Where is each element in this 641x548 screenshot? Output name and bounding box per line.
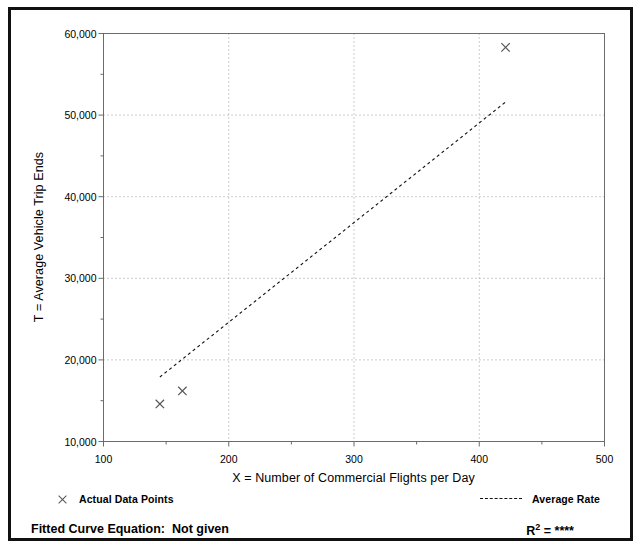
chart-footer: Fitted Curve Equation: Not given R2 = **… [0, 522, 641, 544]
x-tick-label: 100 [95, 453, 113, 465]
r-squared-value: R2 = **** [526, 522, 574, 538]
fitted-curve-equation: Fitted Curve Equation: Not given [31, 522, 229, 536]
r2-equals-value: = **** [540, 524, 574, 538]
y-tick-label: 40,000 [41, 191, 97, 203]
plot-area: T = Average Vehicle Trip Ends X = Number… [0, 0, 641, 548]
legend-item-data-points: Actual Data Points [57, 493, 174, 505]
legend-label-average-rate: Average Rate [532, 493, 600, 505]
y-tick-label: 30,000 [41, 272, 97, 284]
x-tick-label: 200 [220, 453, 238, 465]
x-axis-title: X = Number of Commercial Flights per Day [103, 471, 604, 485]
legend-label-data-points: Actual Data Points [79, 493, 174, 505]
dashed-line-icon [480, 498, 522, 500]
legend-item-average-rate: Average Rate [480, 493, 600, 505]
chart-figure: T = Average Vehicle Trip Ends X = Number… [0, 0, 641, 548]
x-tick-label: 500 [596, 453, 614, 465]
y-tick-label: 50,000 [41, 109, 97, 121]
y-tick-label: 20,000 [41, 354, 97, 366]
y-tick-label: 10,000 [41, 436, 97, 448]
x-tick-label: 400 [470, 453, 488, 465]
chart-legend: Actual Data Points Average Rate [0, 493, 641, 513]
y-axis-title: T = Average Vehicle Trip Ends [32, 117, 46, 357]
r2-prefix: R [526, 524, 535, 538]
x-marker-icon [57, 494, 68, 505]
y-tick-label: 60,000 [41, 28, 97, 40]
x-tick-label: 300 [345, 453, 363, 465]
